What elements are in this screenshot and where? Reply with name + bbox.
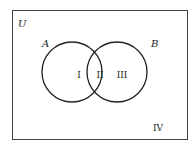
region-iv-label: IV xyxy=(153,123,164,133)
region-i-label: I xyxy=(77,70,81,80)
region-ii-label: II xyxy=(96,70,104,80)
set-a-label: A xyxy=(41,38,49,49)
venn-diagram: U A B I II III IV xyxy=(0,0,195,147)
set-a-circle xyxy=(42,42,102,102)
region-iii-label: III xyxy=(117,70,128,80)
set-b-label: B xyxy=(150,38,158,49)
universe-label: U xyxy=(18,18,27,29)
